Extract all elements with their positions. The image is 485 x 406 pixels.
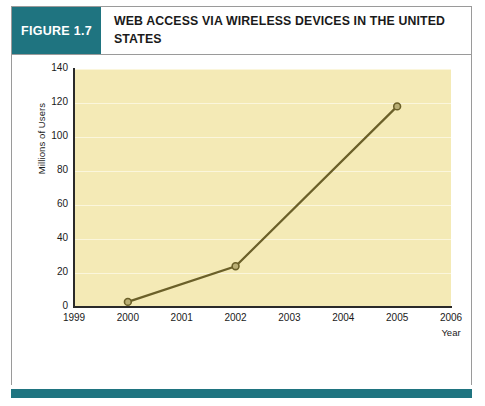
figure-card: FIGURE 1.7 WEB ACCESS VIA WIRELESS DEVIC…	[11, 6, 472, 385]
y-tick-label: 0	[38, 300, 68, 311]
x-tick-label: 2006	[429, 312, 473, 323]
data-series-line	[74, 69, 451, 307]
y-tick-label: 80	[38, 164, 68, 175]
footer-accent-bar	[11, 389, 472, 398]
figure-title-container: WEB ACCESS VIA WIRELESS DEVICES IN THE U…	[101, 7, 471, 54]
chart-body: Millions of Users 020406080100120140 199…	[12, 55, 471, 385]
x-axis-label: Year	[429, 327, 473, 338]
data-point-marker	[394, 103, 401, 110]
x-tick-label: 2004	[321, 312, 365, 323]
plot-area	[74, 69, 451, 307]
x-tick-label: 2000	[106, 312, 150, 323]
figure-title: WEB ACCESS VIA WIRELESS DEVICES IN THE U…	[114, 13, 461, 48]
y-tick-label: 100	[38, 130, 68, 141]
x-tick-label: 1999	[52, 312, 96, 323]
y-axis-line	[73, 68, 75, 308]
figure-header: FIGURE 1.7 WEB ACCESS VIA WIRELESS DEVIC…	[12, 7, 471, 55]
y-tick-label: 140	[38, 62, 68, 73]
data-point-marker	[232, 263, 239, 270]
data-point-marker	[124, 299, 131, 306]
y-tick-label: 120	[38, 96, 68, 107]
y-tick-label: 40	[38, 232, 68, 243]
x-tick-label: 2003	[267, 312, 311, 323]
x-tick-label: 2002	[214, 312, 258, 323]
figure-caption	[13, 400, 473, 406]
y-tick-label: 20	[38, 266, 68, 277]
series-line	[128, 106, 397, 302]
figure-number-badge: FIGURE 1.7	[12, 7, 101, 54]
x-axis-line	[73, 306, 452, 308]
x-tick-label: 2005	[375, 312, 419, 323]
y-tick-label: 60	[38, 198, 68, 209]
x-tick-label: 2001	[160, 312, 204, 323]
